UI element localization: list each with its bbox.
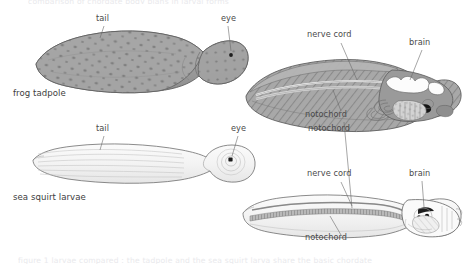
cropped-bottom-caption: figure 1 larvae compared : the tadpole a… bbox=[18, 256, 457, 264]
sea-squirt-cutaway-illustration bbox=[243, 122, 462, 238]
label-eye-frog: eye bbox=[221, 14, 236, 23]
row-label-frog-tadpole: frog tadpole bbox=[13, 89, 66, 98]
label-notochord-seasquirt-upper: notochord bbox=[308, 124, 350, 133]
label-brain-frog: brain bbox=[409, 38, 430, 47]
label-tail-seasquirt: tail bbox=[96, 124, 109, 133]
frog-tadpole-external-illustration bbox=[36, 26, 248, 93]
frog-tadpole-cutaway-illustration bbox=[246, 43, 461, 132]
label-notochord-frog: notochord bbox=[305, 110, 347, 119]
label-notochord-seasquirt-lower: notochord bbox=[305, 233, 347, 242]
label-nerve-cord-seasquirt: nerve cord bbox=[307, 169, 352, 178]
row-label-sea-squirt-larvae: sea squirt larvae bbox=[13, 193, 86, 202]
label-eye-seasquirt: eye bbox=[231, 124, 246, 133]
label-brain-seasquirt: brain bbox=[409, 169, 430, 178]
label-tail-frog: tail bbox=[96, 14, 109, 23]
sea-squirt-external-illustration bbox=[33, 136, 255, 183]
label-nerve-cord-frog: nerve cord bbox=[307, 30, 352, 39]
